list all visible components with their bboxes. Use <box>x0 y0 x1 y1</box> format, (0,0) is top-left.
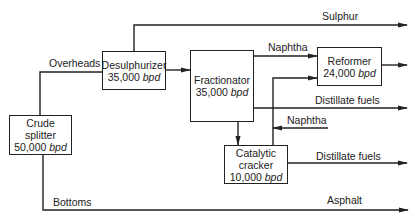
distillate-fuels-cracker-label: Distillate fuels <box>316 150 381 162</box>
catalytic-cracker-box: Catalytic cracker 10,000 bpd <box>224 145 288 184</box>
desulphurizer-rate: 35,000 bpd <box>108 71 161 83</box>
rate-unit: bpd <box>265 171 283 183</box>
catalytic-cracker-rate: 10,000 bpd <box>230 171 283 183</box>
reformer-name: Reformer <box>328 55 372 67</box>
desulphurizer-box: Desulphurizer 35,000 bpd <box>102 51 166 90</box>
cracker-to-reformer-line <box>273 78 317 145</box>
rate-value: 24,000 <box>323 67 355 79</box>
sulphur-label: Sulphur <box>322 10 358 22</box>
fractionator-rate: 35,000 bpd <box>196 86 249 98</box>
asphalt-label: Asphalt <box>327 194 362 206</box>
catalytic-cracker-name-1: Catalytic <box>236 147 276 159</box>
overheads-line <box>40 72 102 115</box>
desulphurizer-name: Desulphurizer <box>102 59 167 71</box>
crude-splitter-name-2: splitter <box>25 129 56 141</box>
rate-value: 35,000 <box>108 71 140 83</box>
reformer-box: Reformer 24,000 bpd <box>317 47 382 86</box>
crude-splitter-rate: 50,000 bpd <box>14 141 67 153</box>
rate-unit: bpd <box>143 71 161 83</box>
rate-value: 50,000 <box>14 141 46 153</box>
naphtha-input-label: Naphtha <box>287 114 327 126</box>
fractionator-box: Fractionator 35,000 bpd <box>190 50 254 122</box>
rate-value: 35,000 <box>196 86 228 98</box>
distillate-fuels-fractionator-label: Distillate fuels <box>315 94 380 106</box>
rate-value: 10,000 <box>230 171 262 183</box>
fractionator-name: Fractionator <box>194 74 250 86</box>
rate-unit: bpd <box>49 141 67 153</box>
rate-unit: bpd <box>358 67 376 79</box>
crude-splitter-name-1: Crude <box>26 117 55 129</box>
bottoms-label: Bottoms <box>53 196 92 208</box>
crude-splitter-box: Crude splitter 50,000 bpd <box>9 115 72 155</box>
overheads-label: Overheads <box>49 57 100 69</box>
reformer-rate: 24,000 bpd <box>323 67 376 79</box>
naphtha-to-reformer-label: Naphtha <box>268 41 308 53</box>
rate-unit: bpd <box>231 86 249 98</box>
process-flow-diagram: Crude splitter 50,000 bpd Desulphurizer … <box>0 0 415 217</box>
catalytic-cracker-name-2: cracker <box>239 159 273 171</box>
